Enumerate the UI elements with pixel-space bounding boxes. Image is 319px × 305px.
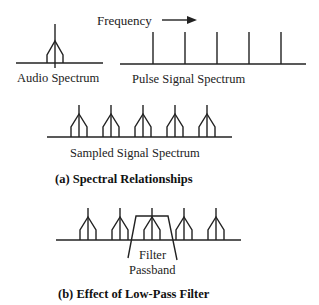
filtered-spectrum — [56, 208, 241, 240]
frequency-label: Frequency — [97, 13, 152, 28]
pulse-spectrum — [120, 32, 306, 64]
caption-a: (a) Spectral Relationships — [55, 172, 193, 186]
spectrum-peak — [71, 105, 87, 137]
audio-spectrum-label: Audio Spectrum — [17, 71, 100, 85]
spectral-diagram: Frequency Audio Spectrum Pulse Signal Sp… — [0, 0, 319, 305]
sampled-spectrum — [47, 105, 232, 137]
spectrum-peak — [112, 208, 128, 240]
spectrum-peak — [176, 208, 192, 240]
audio-spectrum — [16, 24, 103, 68]
spectrum-peak — [135, 105, 151, 137]
frequency-arrow-icon — [162, 16, 197, 24]
sampled-spectrum-label: Sampled Signal Spectrum — [70, 146, 200, 160]
filter-label: Filter — [139, 248, 167, 262]
passband-label: Passband — [129, 263, 176, 277]
caption-b: (b) Effect of Low-Pass Filter — [58, 287, 210, 301]
spectrum-peak — [80, 208, 96, 240]
spectrum-peak — [208, 208, 224, 240]
spectrum-peak — [144, 208, 160, 240]
pulse-spectrum-label: Pulse Signal Spectrum — [132, 72, 245, 86]
spectrum-peak — [167, 105, 183, 137]
spectrum-peak — [103, 105, 119, 137]
spectrum-peak — [199, 105, 215, 137]
